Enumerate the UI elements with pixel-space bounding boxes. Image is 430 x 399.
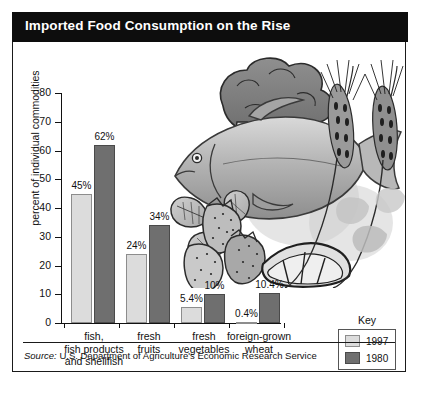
figure-panel: Imported Food Consumption on the Rise [12,12,406,372]
legend-box: 1997 1980 [338,329,396,370]
y-tick-label: 80 [29,87,51,98]
legend-item[interactable]: 1980 [345,352,390,364]
figure-body: percent of individual commodities 010203… [13,42,405,371]
y-tick-label: 50 [29,173,51,184]
y-tick-mark [55,294,61,295]
y-tick-label: 20 [29,260,51,271]
x-tick-mark [229,323,230,328]
y-tick-mark [55,208,61,209]
x-tick-mark [64,323,65,328]
bar-1997-2[interactable] [181,307,202,323]
y-tick-mark [55,151,61,152]
source-note: Source: U.S. Department of Agriculture's… [24,350,317,361]
footer-divider [23,342,395,343]
bar-value-label: 10% [196,281,233,291]
x-tick-mark [284,323,285,328]
y-tick-mark [55,122,61,123]
x-tick-mark [119,323,120,328]
source-prefix: Source: [24,350,57,361]
y-tick-label: 30 [29,231,51,242]
y-tick-mark [55,93,61,94]
bar-1980-0[interactable] [94,145,115,323]
bar-1997-1[interactable] [126,254,147,323]
bar-value-label: 34% [141,212,178,222]
title-bar: Imported Food Consumption on the Rise [12,12,408,42]
y-tick-label: 10 [29,288,51,299]
y-tick-label: 40 [29,202,51,213]
legend-title: Key [338,314,396,326]
y-tick-label: 60 [29,145,51,156]
y-tick-mark [55,179,61,180]
bar-value-label: 62% [86,132,123,142]
source-text: U.S. Department of Agriculture's Economi… [59,350,316,361]
bar-chart: percent of individual commodities 010203… [13,42,343,342]
x-tick-mark [174,323,175,328]
y-tick-mark [55,323,61,324]
bar-1980-1[interactable] [149,225,170,323]
legend-label-1997: 1997 [366,336,388,347]
bar-1997-0[interactable] [71,194,92,323]
bar-1980-3[interactable] [259,293,280,323]
bar-1997-3[interactable] [236,322,257,324]
y-tick-mark [55,237,61,238]
bar-value-label: 10.4% [251,280,288,290]
y-axis-line [61,93,62,324]
legend-swatch-1997 [345,335,360,347]
legend-label-1980: 1980 [366,353,388,364]
bar-1980-2[interactable] [204,294,225,323]
y-tick-label: 70 [29,116,51,127]
legend-item[interactable]: 1997 [345,335,390,347]
y-tick-mark [55,266,61,267]
y-tick-label: 0 [29,317,51,328]
page-title: Imported Food Consumption on the Rise [25,18,290,33]
legend-swatch-1980 [345,352,360,364]
